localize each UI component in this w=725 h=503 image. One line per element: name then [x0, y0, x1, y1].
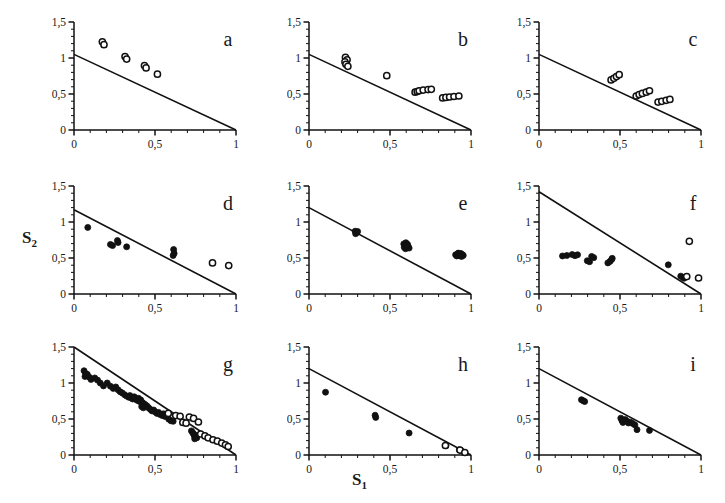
data-point-open	[384, 73, 390, 79]
series-open	[684, 238, 702, 281]
x-tick-label: 0	[536, 463, 542, 475]
x-axis: 00,51	[71, 294, 239, 315]
data-point-open	[101, 42, 107, 48]
x-tick-label: 1	[233, 302, 239, 314]
y-tick-label: 0,5	[517, 88, 531, 101]
x-tick-label: 1	[468, 302, 474, 314]
y-axis: 00,511,5	[517, 341, 539, 461]
x-tick-label: 0,5	[383, 138, 398, 151]
data-point-filled	[403, 246, 409, 252]
data-point-open	[462, 449, 468, 455]
series-filled	[85, 224, 177, 258]
x-tick-label: 0,5	[383, 302, 398, 315]
y-tick-label: 0,5	[287, 88, 301, 101]
panel-i: 00,511,500,51i	[517, 333, 717, 483]
panel-letter: h	[458, 353, 468, 375]
y-tick-label: 1,5	[517, 16, 531, 29]
y-tick-label: 1,5	[517, 180, 531, 193]
y-tick-label: 0	[525, 288, 531, 300]
series-open	[99, 39, 160, 78]
data-point-filled	[582, 399, 588, 405]
panel-letter: c	[689, 28, 698, 50]
x-tick-label: 1	[233, 138, 239, 150]
y-tick-label: 0,5	[52, 413, 66, 426]
x-tick-label: 1	[698, 463, 704, 475]
panel-g: 00,511,500,51g	[52, 333, 252, 483]
panel-a: 00,511,500,51a	[52, 8, 252, 158]
x-axis: 00,51	[536, 294, 704, 315]
data-point-open	[124, 56, 130, 62]
x-tick-label: 1	[233, 463, 239, 475]
data-point-open	[226, 262, 232, 268]
panel-letter: e	[459, 192, 468, 214]
data-point-filled	[110, 243, 116, 249]
data-point-filled	[170, 252, 176, 258]
panel-f: 00,511,500,51f	[517, 172, 717, 322]
data-point-open	[165, 410, 171, 416]
data-point-filled	[323, 389, 329, 395]
y-tick-label: 1	[295, 377, 301, 389]
panel-c: 00,511,500,51c	[517, 8, 717, 158]
x-tick-label: 0	[71, 302, 77, 314]
x-axis: 00,51	[536, 130, 704, 151]
series-filled	[81, 368, 200, 442]
data-point-open	[428, 86, 434, 92]
y-tick-label: 0,5	[287, 413, 301, 426]
y-tick-label: 1	[525, 216, 531, 228]
data-point-filled	[665, 262, 671, 268]
x-tick-label: 0	[306, 463, 312, 475]
x-tick-label: 0,5	[383, 463, 398, 476]
data-point-filled	[406, 430, 412, 436]
data-point-filled	[575, 252, 581, 258]
y-axis: 00,511,5	[287, 180, 309, 300]
x-tick-label: 1	[698, 138, 704, 150]
x-tick-label: 0,5	[148, 463, 163, 476]
data-point-filled	[85, 224, 91, 230]
y-tick-label: 0	[295, 288, 301, 300]
series-open	[209, 260, 231, 269]
data-point-filled	[115, 240, 121, 246]
panel-letter: d	[223, 192, 233, 214]
y-tick-label: 0,5	[52, 252, 66, 265]
data-point-open	[442, 442, 448, 448]
panel-letter: f	[690, 192, 697, 214]
y-tick-label: 0	[295, 124, 301, 136]
x-tick-label: 0,5	[148, 138, 163, 151]
panel-letter: a	[224, 28, 233, 50]
y-axis: 00,511,5	[52, 341, 74, 461]
panel-h: 00,511,500,51h	[287, 333, 487, 483]
panel-letter: b	[458, 28, 468, 50]
y-tick-label: 1,5	[287, 341, 301, 354]
data-point-open	[183, 420, 189, 426]
y-axis-label: S2	[22, 228, 37, 249]
data-point-filled	[459, 253, 465, 259]
y-tick-label: 1	[60, 216, 66, 228]
x-axis: 00,51	[306, 294, 474, 315]
data-point-filled	[124, 244, 130, 250]
data-point-open	[616, 72, 622, 78]
data-point-open	[225, 443, 231, 449]
series-filled	[352, 228, 466, 259]
y-tick-label: 1	[525, 377, 531, 389]
constraint-line	[539, 369, 701, 455]
y-tick-label: 1,5	[52, 341, 66, 354]
x-tick-label: 0	[71, 463, 77, 475]
y-tick-label: 1	[295, 52, 301, 64]
x-tick-label: 0,5	[613, 302, 628, 315]
data-point-filled	[591, 255, 597, 261]
y-tick-label: 1,5	[517, 341, 531, 354]
x-tick-label: 0,5	[613, 463, 628, 476]
data-point-open	[209, 260, 215, 266]
data-point-open	[154, 71, 160, 77]
y-tick-label: 0,5	[287, 252, 301, 265]
constraint-line	[309, 208, 471, 294]
data-point-filled	[355, 229, 361, 235]
y-tick-label: 1,5	[52, 180, 66, 193]
panel-e: 00,511,500,51e	[287, 172, 487, 322]
data-point-filled	[646, 427, 652, 433]
y-tick-label: 1,5	[52, 16, 66, 29]
x-tick-label: 0	[536, 138, 542, 150]
y-tick-label: 0	[525, 124, 531, 136]
y-tick-label: 0,5	[517, 252, 531, 265]
constraint-line	[74, 54, 236, 130]
